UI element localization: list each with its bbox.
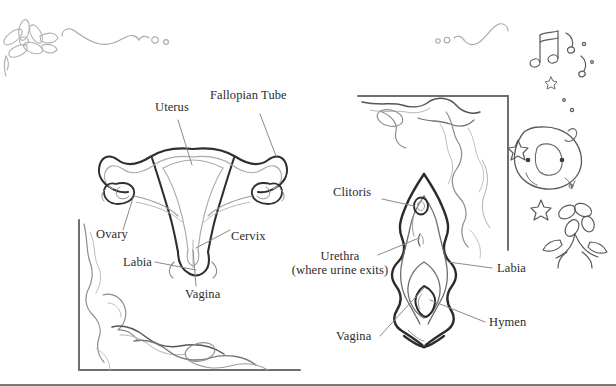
label-urethra-main: Urethra — [321, 249, 360, 263]
leader-labia-r — [448, 262, 492, 268]
leader-uterus — [178, 120, 192, 165]
label-fallopian-tube: Fallopian Tube — [210, 88, 287, 102]
label-uterus: Uterus — [155, 100, 189, 114]
leader-clitoris — [382, 199, 414, 206]
leader-hymen — [430, 300, 485, 322]
leader-vagina-r — [380, 288, 424, 336]
label-clitoris: Clitoris — [333, 185, 371, 199]
leader-labia — [155, 262, 196, 270]
leader-vagina — [193, 250, 196, 286]
label-cervix: Cervix — [231, 229, 266, 243]
leader-ovary — [123, 198, 133, 230]
label-ovary: Ovary — [96, 227, 128, 241]
leader-cervix — [196, 230, 230, 248]
label-hymen: Hymen — [489, 315, 526, 329]
label-labia: Labia — [123, 255, 152, 269]
diagram-page: Uterus Fallopian Tube Ovary Cervix Labia… — [0, 0, 616, 386]
label-vagina-right: Vagina — [336, 329, 371, 343]
label-labia-right: Labia — [497, 261, 526, 275]
label-urethra: Urethra (where urine exits) — [282, 249, 398, 278]
leader-fallopian-tube — [260, 114, 276, 156]
label-urethra-sub: (where urine exits) — [282, 263, 398, 277]
label-vagina: Vagina — [185, 287, 220, 301]
